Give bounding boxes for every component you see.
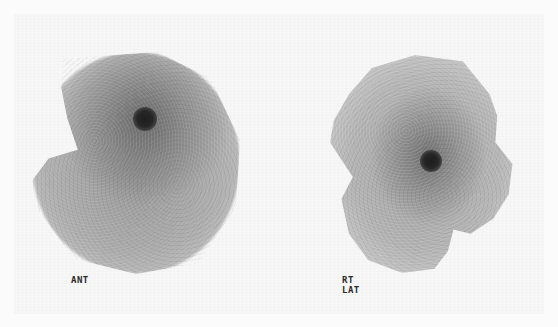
scan-canvas: ANT RT LAT — [0, 0, 558, 327]
anterior-view-noise-texture — [32, 52, 240, 274]
right-lateral-view-label: RT LAT — [342, 275, 360, 295]
anterior-view-label: ANT — [71, 275, 89, 285]
anterior-view-hotspot — [133, 107, 157, 131]
right-lateral-view-hotspot — [420, 150, 442, 172]
